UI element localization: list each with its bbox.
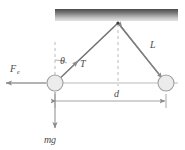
electric-force-symbol: F — [9, 63, 17, 74]
length-dimension-arrow — [122, 27, 162, 78]
right-charged-ball — [158, 75, 174, 91]
weight-gravity-symbol: g — [51, 134, 56, 145]
theta-label: θ — [60, 55, 65, 66]
left-charged-ball — [47, 75, 63, 91]
length-label: L — [149, 39, 156, 50]
separation-dimension — [55, 94, 166, 108]
separation-label: d — [114, 88, 120, 99]
electric-force-subscript: e — [17, 69, 20, 75]
weight-label: m g — [44, 134, 56, 145]
pivot-point — [116, 21, 119, 24]
physics-diagram-figure: θ T L d F e m g — [0, 0, 185, 150]
diagram-canvas: θ T L d F e m g — [0, 0, 185, 150]
tension-label: T — [80, 58, 87, 69]
ceiling-support — [55, 9, 178, 21]
electric-force-label: F e — [9, 63, 20, 75]
